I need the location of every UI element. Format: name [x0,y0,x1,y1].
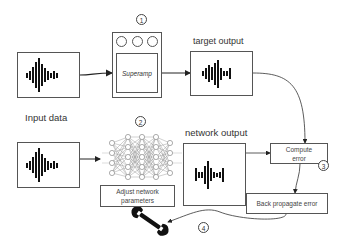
step-marker-4: 4 [198,222,209,233]
network-output-box [183,143,246,206]
adjust-params-box: Adjust network parameters [100,185,175,207]
network-output-label: network output [185,127,247,138]
arrow-compute-to-backprop [295,164,300,193]
input-audio-box-bottom [17,142,80,188]
target-output-box [190,51,253,96]
arrow-target-to-compute [253,73,305,143]
knob-icon [147,36,158,47]
knob-icon [132,36,143,47]
back-propagate-box: Back propagate error [246,193,328,214]
compute-error-line1: Compute [271,145,327,154]
target-output-label: target output [193,36,244,46]
step-marker-1: 1 [136,14,147,25]
step-marker-3: 3 [318,160,329,171]
adjust-params-line2: parameters [101,196,174,205]
wrench-icon [129,204,171,238]
neural-network-icon [102,134,182,179]
pedal-name: Superamp [122,70,152,77]
audio-waveform-icon [26,143,58,187]
adjust-params-line1: Adjust network [101,187,174,196]
audio-waveform-icon [26,53,58,97]
knob-icon [116,36,127,47]
pedal-knobs [116,36,158,48]
superamp-pedal: Superamp [112,32,162,98]
arrow-input-to-pedal [80,73,112,75]
input-audio-box-top [17,52,80,98]
step-marker-2: 2 [135,116,146,127]
back-propagate-label: Back propagate error [256,200,317,207]
audio-waveform-icon [202,52,231,95]
pedal-panel: Superamp [116,53,158,93]
input-data-label: Input data [25,112,67,123]
audio-waveform-icon [195,144,224,205]
